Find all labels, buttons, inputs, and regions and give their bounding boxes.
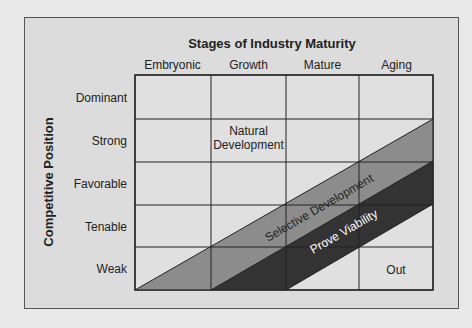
row-favorable: Favorable bbox=[74, 177, 127, 191]
col-mature: Mature bbox=[285, 58, 360, 72]
row-tenable: Tenable bbox=[85, 220, 127, 234]
row-strong: Strong bbox=[92, 134, 127, 148]
col-growth: Growth bbox=[211, 58, 286, 72]
out-label: Out bbox=[359, 263, 433, 277]
col-embryonic: Embryonic bbox=[135, 58, 210, 72]
y-axis-label: Competitive Position bbox=[41, 117, 56, 246]
row-dominant: Dominant bbox=[76, 91, 127, 105]
chart-title: Stages of Industry Maturity bbox=[72, 36, 472, 51]
col-aging: Aging bbox=[359, 58, 434, 72]
natural-development-line2: Development bbox=[211, 138, 286, 152]
natural-development-line1: Natural bbox=[211, 124, 286, 138]
row-weak: Weak bbox=[97, 262, 127, 276]
